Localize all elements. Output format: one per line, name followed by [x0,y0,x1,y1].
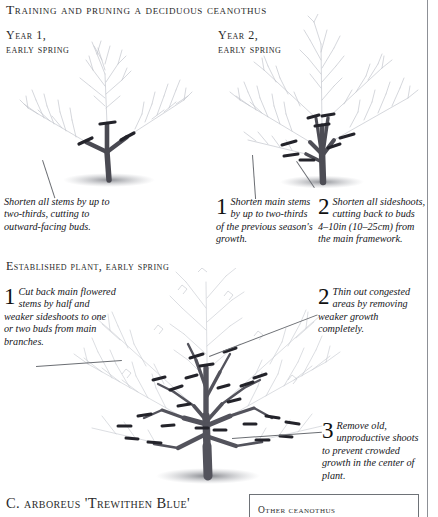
caption-established-step-1: 1 Cut back main flowered stems by half a… [4,286,116,348]
caption-year-1: Shorten all stems by up to two-thirds, c… [4,196,112,233]
caption-established-step-3: 3 Remove old, unproductive shoots to pre… [322,420,428,482]
caption-year-2-step-2: 2 Shorten all sideshoots, cutting back t… [318,196,426,246]
caption-established-step-2: 2 Thin out congested areas by removing w… [318,286,426,336]
caption-year-2-step-1-text: Shorten main stems by up to two-thirds o… [216,196,313,244]
book-page: Training and pruning a deciduous ceanoth… [0,0,438,517]
species-caption: C. arboreus 'Trewithen Blue' [6,495,190,512]
caption-established-step-1-text: Cut back main flowered stems by half and… [4,286,116,347]
column-divider-rule [427,0,428,517]
step-number-2: 2 [318,287,330,306]
caption-established-step-3-text: Remove old, unproductive shoots to preve… [322,420,418,481]
step-number-1: 1 [216,197,228,216]
caption-year-1-text: Shorten all stems by up to two-thirds, c… [4,196,110,232]
step-number-2: 2 [318,197,330,216]
caption-established-step-2-text: Thin out congested areas by removing wea… [318,286,410,334]
step-number-3: 3 [322,421,334,440]
other-ceanothus-panel-heading: Other ceanothus [258,505,335,515]
illustration-year-1-shrub [14,34,204,194]
caption-year-2-step-2-text: Shorten all sideshoots, cutting back to … [318,196,425,244]
caption-year-2-step-1: 1 Shorten main stems by up to two-thirds… [216,196,314,246]
step-number-1: 1 [4,287,16,306]
